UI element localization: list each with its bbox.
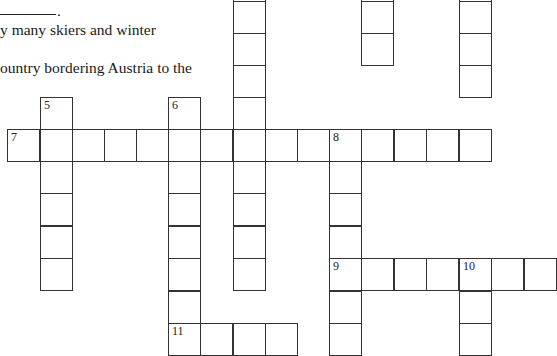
crossword-cell[interactable]	[329, 291, 362, 324]
crossword-cell[interactable]	[524, 258, 557, 291]
crossword-cell[interactable]	[168, 193, 201, 226]
crossword-cell[interactable]	[329, 226, 362, 259]
crossword-cell[interactable]	[168, 258, 201, 291]
clue-number: 9	[333, 260, 339, 273]
crossword-cell[interactable]	[168, 291, 201, 324]
crossword-cell[interactable]	[329, 323, 362, 356]
crossword-cell[interactable]	[168, 129, 201, 162]
crossword-cell[interactable]	[40, 258, 73, 291]
crossword-cell[interactable]	[459, 65, 492, 98]
crossword-cell[interactable]	[233, 258, 266, 291]
crossword-cell-8[interactable]: 8	[329, 129, 362, 162]
clue-number: 10	[463, 260, 475, 273]
crossword-cell-7[interactable]: 7	[7, 129, 40, 162]
crossword-cell[interactable]	[233, 226, 266, 259]
crossword-cell[interactable]	[233, 65, 266, 98]
crossword-cell[interactable]	[297, 129, 330, 162]
clue-number: 5	[44, 99, 50, 112]
crossword-cell[interactable]	[394, 129, 427, 162]
crossword-cell[interactable]	[200, 323, 233, 356]
clue-number: 8	[333, 131, 339, 144]
crossword-cell[interactable]	[136, 129, 169, 162]
crossword-cell[interactable]	[329, 193, 362, 226]
crossword-cell[interactable]	[426, 258, 459, 291]
crossword-cell[interactable]	[233, 323, 266, 356]
crossword-cell[interactable]	[233, 97, 266, 130]
crossword-cell[interactable]	[40, 161, 73, 194]
crossword-cell[interactable]	[233, 1, 266, 34]
crossword-cell[interactable]	[265, 129, 298, 162]
crossword-cell-9[interactable]: 9	[329, 258, 362, 291]
crossword-cell[interactable]	[233, 161, 266, 194]
crossword-cell[interactable]	[459, 33, 492, 66]
crossword-cell[interactable]	[200, 129, 233, 162]
crossword-cell[interactable]	[361, 33, 394, 66]
crossword-cell[interactable]	[233, 193, 266, 226]
crossword-cell[interactable]	[104, 129, 137, 162]
clue-number: 7	[11, 131, 17, 144]
crossword-cell[interactable]	[72, 129, 105, 162]
crossword-cell-10[interactable]: 10	[459, 258, 492, 291]
crossword-cell[interactable]	[459, 291, 492, 324]
crossword-cell-5[interactable]: 5	[40, 97, 73, 130]
crossword-cell[interactable]	[40, 226, 73, 259]
crossword-cell-6[interactable]: 6	[168, 97, 201, 130]
crossword-cell[interactable]	[459, 1, 492, 34]
crossword-cell[interactable]	[426, 129, 459, 162]
crossword-cell[interactable]	[361, 258, 394, 291]
crossword-cell[interactable]	[459, 129, 492, 162]
crossword-cell[interactable]	[491, 258, 524, 291]
crossword-cell[interactable]	[361, 1, 394, 34]
clue-number: 6	[172, 99, 178, 112]
crossword-cell[interactable]	[168, 226, 201, 259]
crossword-cell[interactable]	[233, 129, 266, 162]
clue-number: 11	[172, 325, 184, 338]
crossword-cell[interactable]	[329, 161, 362, 194]
crossword-cell[interactable]	[40, 193, 73, 226]
crossword-cell[interactable]	[459, 323, 492, 356]
crossword-cell-11[interactable]: 11	[168, 323, 201, 356]
crossword-cell[interactable]	[40, 129, 73, 162]
crossword-cell[interactable]	[233, 33, 266, 66]
crossword-cell[interactable]	[361, 129, 394, 162]
crossword-cell[interactable]	[394, 258, 427, 291]
crossword-cell[interactable]	[265, 323, 298, 356]
crossword-cell[interactable]	[168, 161, 201, 194]
